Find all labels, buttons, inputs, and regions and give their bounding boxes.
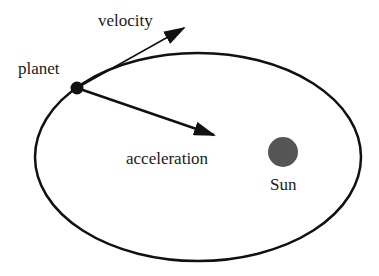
velocity-label: velocity — [98, 12, 153, 29]
planet-label: planet — [18, 60, 60, 77]
sun-label: Sun — [270, 176, 296, 193]
acceleration-arrow — [77, 88, 214, 135]
sun-circle — [268, 137, 298, 167]
velocity-arrow — [77, 28, 184, 88]
planet-dot — [71, 82, 84, 95]
orbit-diagram — [0, 0, 379, 276]
acceleration-label: acceleration — [126, 150, 208, 167]
